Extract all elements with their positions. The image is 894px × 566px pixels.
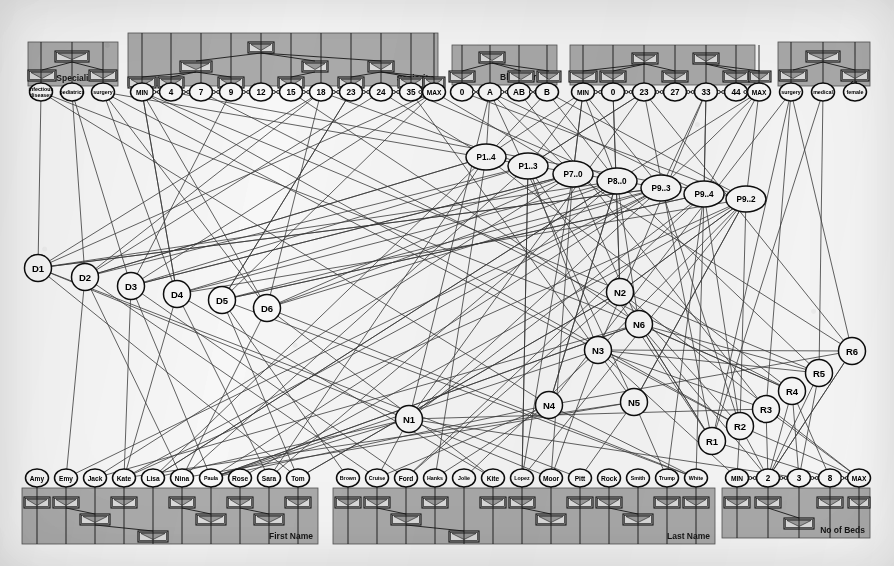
entity-node-n1[interactable]: N1 xyxy=(396,406,423,433)
value-node-type[interactable]: surgery xyxy=(780,83,803,101)
value-node-first-name[interactable]: Paula xyxy=(200,469,223,487)
value-node-seniority[interactable]: MIN xyxy=(131,83,154,101)
entity-node-p80[interactable]: P8..0 xyxy=(597,168,637,194)
value-node-blood-group[interactable]: AB xyxy=(508,83,531,101)
value-node-first-name[interactable]: Rose xyxy=(229,469,252,487)
value-node-last-name[interactable]: Moor xyxy=(540,469,563,487)
entity-node-d5[interactable]: D5 xyxy=(209,287,236,314)
value-node-blood-group[interactable]: B xyxy=(536,83,559,101)
entity-node-r3[interactable]: R3 xyxy=(753,396,780,423)
value-node-age[interactable]: 33 xyxy=(695,83,718,101)
value-node-label: MAX xyxy=(427,89,442,96)
entity-node-p14[interactable]: P1..4 xyxy=(466,144,506,170)
value-node-last-name[interactable]: Jolie xyxy=(453,469,476,487)
value-node-first-name[interactable]: Jack xyxy=(84,469,107,487)
value-node-label: Nina xyxy=(175,475,190,482)
value-node-label: surgery xyxy=(93,89,112,95)
value-node-label: infectiousdiseases xyxy=(28,86,53,98)
value-node-specialization[interactable]: infectiousdiseases xyxy=(28,83,53,101)
entity-node-label: N6 xyxy=(633,319,645,330)
value-node-last-name[interactable]: Hanks xyxy=(424,469,447,487)
entity-node-p92[interactable]: P9..2 xyxy=(726,186,766,212)
value-node-blood-group[interactable]: 0 xyxy=(451,83,474,101)
value-node-no-of-beds[interactable]: 3 xyxy=(788,469,811,487)
value-node-label: AB xyxy=(513,88,525,97)
value-node-last-name[interactable]: Kite xyxy=(482,469,505,487)
value-node-label: Emy xyxy=(59,475,73,483)
value-node-last-name[interactable]: Brown xyxy=(337,469,360,487)
entity-node-n2[interactable]: N2 xyxy=(607,279,634,306)
value-node-specialization[interactable]: surgery xyxy=(92,83,115,101)
value-node-first-name[interactable]: Kate xyxy=(113,469,136,487)
value-node-last-name[interactable]: Pitt xyxy=(569,469,592,487)
value-node-label: female xyxy=(847,89,864,95)
value-node-seniority[interactable]: 12 xyxy=(250,83,273,101)
entity-node-label: N4 xyxy=(543,400,556,411)
value-node-seniority[interactable]: 23 xyxy=(340,83,363,101)
value-node-label: Lisa xyxy=(146,475,160,482)
entity-node-p70[interactable]: P7..0 xyxy=(553,161,593,187)
entity-node-n6[interactable]: N6 xyxy=(626,311,653,338)
value-node-first-name[interactable]: Tom xyxy=(287,469,310,487)
value-node-label: Jack xyxy=(88,475,103,482)
value-node-label: Moor xyxy=(543,475,560,482)
value-node-seniority[interactable]: 24 xyxy=(370,83,393,101)
value-node-seniority[interactable]: 15 xyxy=(280,83,303,101)
value-node-first-name[interactable]: Sara xyxy=(258,469,281,487)
entity-node-d3[interactable]: D3 xyxy=(118,273,145,300)
value-node-last-name[interactable]: Ford xyxy=(395,469,418,487)
value-node-first-name[interactable]: Nina xyxy=(171,469,194,487)
value-node-age[interactable]: MAX xyxy=(748,83,771,101)
value-node-last-name[interactable]: Smith xyxy=(627,469,650,487)
entity-node-r4[interactable]: R4 xyxy=(779,378,806,405)
entity-node-n3[interactable]: N3 xyxy=(585,337,612,364)
entity-node-d2[interactable]: D2 xyxy=(72,264,99,291)
entity-node-r5[interactable]: R5 xyxy=(806,360,833,387)
entity-node-r2[interactable]: R2 xyxy=(727,413,754,440)
value-node-type[interactable]: medical xyxy=(812,83,835,101)
value-node-first-name[interactable]: Lisa xyxy=(142,469,165,487)
entity-node-r6[interactable]: R6 xyxy=(839,338,866,365)
value-node-no-of-beds[interactable]: 8 xyxy=(819,469,842,487)
value-node-last-name[interactable]: Lopez xyxy=(511,469,534,487)
value-node-age[interactable]: MIN xyxy=(572,83,595,101)
value-node-label: Rock xyxy=(601,475,617,482)
value-node-label: 4 xyxy=(169,88,174,97)
value-node-last-name[interactable]: Cruise xyxy=(366,469,389,487)
value-node-last-name[interactable]: Trump xyxy=(656,469,679,487)
entity-node-label: D3 xyxy=(125,281,137,292)
value-node-type[interactable]: female xyxy=(844,83,867,101)
entity-node-label: D5 xyxy=(216,295,229,306)
value-node-seniority[interactable]: 18 xyxy=(310,83,333,101)
value-node-no-of-beds[interactable]: MAX xyxy=(848,469,871,487)
value-node-no-of-beds[interactable]: 2 xyxy=(757,469,780,487)
value-node-label: Tom xyxy=(291,475,305,482)
entity-node-p93[interactable]: P9..3 xyxy=(641,175,681,201)
entity-node-n5[interactable]: N5 xyxy=(621,389,648,416)
value-node-no-of-beds[interactable]: MIN xyxy=(726,469,749,487)
entity-node-n4[interactable]: N4 xyxy=(536,392,563,419)
value-node-blood-group[interactable]: A xyxy=(479,83,502,101)
value-node-last-name[interactable]: White xyxy=(685,469,708,487)
value-node-last-name[interactable]: Rock xyxy=(598,469,621,487)
entity-node-d1[interactable]: D1 xyxy=(25,255,52,282)
entity-node-r1[interactable]: R1 xyxy=(699,428,726,455)
value-node-label: 0 xyxy=(460,88,465,97)
value-node-seniority[interactable]: 7 xyxy=(190,83,213,101)
entity-node-label: D1 xyxy=(32,263,45,274)
value-node-age[interactable]: 27 xyxy=(664,83,687,101)
value-node-age[interactable]: 23 xyxy=(633,83,656,101)
value-node-seniority[interactable]: 4 xyxy=(160,83,183,101)
value-node-label: Smith xyxy=(631,475,646,481)
value-node-age[interactable]: 0 xyxy=(602,83,625,101)
entity-node-d4[interactable]: D4 xyxy=(164,281,191,308)
value-node-seniority[interactable]: 9 xyxy=(220,83,243,101)
value-node-seniority[interactable]: MAX xyxy=(423,83,446,101)
value-node-label: 24 xyxy=(376,88,386,97)
value-node-specialization[interactable]: pediatrics xyxy=(59,83,84,101)
entity-node-d6[interactable]: D6 xyxy=(254,295,281,322)
value-node-first-name[interactable]: Emy xyxy=(55,469,78,487)
value-node-first-name[interactable]: Amy xyxy=(26,469,49,487)
entity-node-p94[interactable]: P9..4 xyxy=(684,181,724,207)
entity-node-p13[interactable]: P1..3 xyxy=(508,153,548,179)
